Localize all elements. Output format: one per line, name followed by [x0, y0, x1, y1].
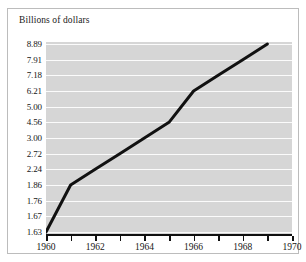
- y-axis-tick-label: 7.91: [27, 55, 42, 65]
- x-axis-tick: [292, 236, 294, 241]
- y-axis-tick-label: 2.24: [27, 164, 42, 174]
- x-axis-ticks: [46, 236, 292, 241]
- x-axis-tick-label: 1960: [37, 242, 56, 252]
- x-axis-tick-labels: 196019621964196619681970: [46, 242, 292, 256]
- x-axis-tick: [194, 236, 196, 241]
- y-axis-tick-label: 2.72: [27, 149, 42, 159]
- x-axis-tick: [95, 236, 97, 241]
- x-axis-tick: [243, 236, 245, 241]
- x-axis-tick: [71, 236, 73, 241]
- x-axis-tick-label: 1968: [233, 242, 252, 252]
- x-axis-tick-label: 1970: [283, 242, 302, 252]
- series-line: [46, 44, 267, 232]
- x-axis-tick: [169, 236, 171, 241]
- chart-title: Billions of dollars: [19, 15, 90, 25]
- y-axis-tick-label: 1.86: [27, 180, 42, 190]
- plot-area: [46, 42, 292, 234]
- x-axis-tick-label: 1966: [184, 242, 203, 252]
- series-line-chart: [46, 42, 292, 234]
- x-axis-tick: [120, 236, 122, 241]
- y-axis-tick-label: 1.76: [27, 196, 42, 206]
- y-axis-tick-label: 7.18: [27, 70, 42, 80]
- y-axis-tick-label: 8.89: [27, 39, 42, 49]
- x-axis-tick: [46, 236, 48, 241]
- y-axis-tick-labels: 8.897.917.186.215.004.563.002.722.241.86…: [8, 42, 44, 234]
- x-axis-tick-label: 1962: [86, 242, 105, 252]
- y-axis-tick-label: 1.67: [27, 211, 42, 221]
- y-axis-tick-label: 3.00: [27, 133, 42, 143]
- y-axis-tick-label: 4.56: [27, 117, 42, 127]
- x-axis-tick: [218, 236, 220, 241]
- chart-figure: Billions of dollars 8.897.917.186.215.00…: [7, 8, 299, 254]
- y-axis-tick-label: 6.21: [27, 86, 42, 96]
- y-axis-tick-label: 5.00: [27, 102, 42, 112]
- x-axis-tick: [144, 236, 146, 241]
- x-axis-tick-label: 1964: [135, 242, 154, 252]
- x-axis-tick: [267, 236, 269, 241]
- y-axis-tick-label: 1.63: [27, 227, 42, 237]
